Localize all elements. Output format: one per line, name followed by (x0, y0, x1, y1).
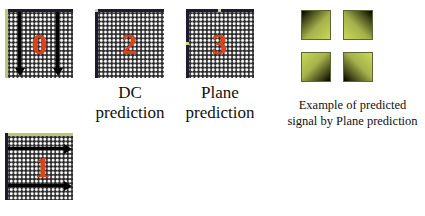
example-square-top-left (301, 10, 331, 40)
mode-number: 0 (32, 29, 47, 59)
caption-line-2: signal by Plane prediction (280, 113, 425, 129)
top-right-reference-marker (218, 9, 221, 12)
down-arrow-shaft-2 (56, 12, 59, 69)
mode-number: 1 (35, 152, 50, 182)
mode-number: 2 (122, 29, 137, 59)
mode-1-horizontal-grid: 1 (5, 133, 73, 200)
plane-prediction-label: Plane prediction (175, 83, 265, 123)
right-arrow-shaft-2 (8, 184, 65, 187)
example-square-top-right (343, 10, 373, 40)
mode-3-plane-grid: 3 (186, 9, 254, 78)
label-line-1: DC (85, 83, 175, 103)
example-caption: Example of predicted signal by Plane pre… (280, 97, 425, 129)
example-square-bottom-right (343, 52, 373, 82)
top-reference-pixels (5, 133, 73, 136)
left-reference-pixels (5, 9, 8, 78)
mode-2-dc-grid: 2 (95, 9, 164, 78)
top-reference-pixels (95, 9, 164, 12)
dc-prediction-label: DC prediction (85, 83, 175, 123)
down-arrow-shaft-1 (18, 12, 21, 69)
label-line-2: prediction (85, 103, 175, 123)
left-reference-pixels (5, 133, 8, 200)
arrow-right-icon (64, 181, 72, 191)
mode-0-vertical-grid: 0 (5, 9, 73, 78)
left-reference-pixels (95, 9, 98, 78)
label-line-1: Plane (175, 83, 265, 103)
top-reference-pixels (5, 9, 73, 12)
mode-number: 3 (212, 29, 227, 59)
arrow-down-icon (15, 68, 25, 76)
example-square-bottom-left (301, 52, 331, 82)
label-line-2: prediction (175, 103, 265, 123)
caption-line-1: Example of predicted (280, 97, 425, 113)
corner-reference-pixel (95, 9, 98, 12)
arrow-down-icon (53, 68, 63, 76)
arrow-right-icon (64, 144, 72, 154)
left-reference-marker (186, 42, 189, 45)
